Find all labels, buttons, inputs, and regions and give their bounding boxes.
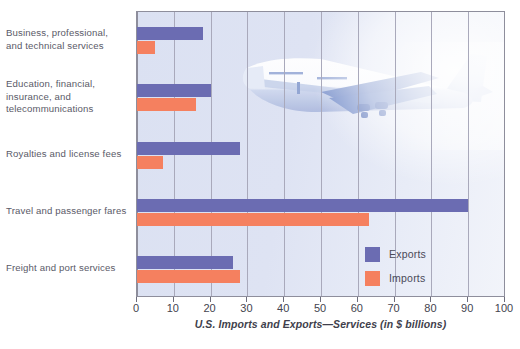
gridline-60: [358, 12, 359, 296]
bar-exports-2: [137, 142, 240, 155]
x-tick-label-40: 40: [277, 302, 289, 314]
category-label-line: Education, financial,: [6, 78, 130, 90]
legend: ExportsImports: [365, 244, 473, 292]
airplane-photo: [225, 42, 505, 150]
category-label-line: insurance, and: [6, 91, 130, 103]
gridline-30: [247, 12, 248, 296]
category-label-1: Education, financial,insurance, andtelec…: [6, 78, 130, 115]
x-tick-label-100: 100: [495, 302, 513, 314]
x-tick-label-0: 0: [133, 302, 139, 314]
x-tick-label-10: 10: [167, 302, 179, 314]
gridline-50: [321, 12, 322, 296]
bar-imports-2: [137, 156, 163, 169]
x-tick-label-80: 80: [424, 302, 436, 314]
bar-imports-3: [137, 213, 369, 226]
x-tick-label-50: 50: [314, 302, 326, 314]
bar-imports-1: [137, 98, 196, 111]
x-tick-label-20: 20: [203, 302, 215, 314]
legend-label: Exports: [389, 248, 426, 260]
legend-item-imports: Imports: [365, 268, 473, 288]
x-tick-label-30: 30: [240, 302, 252, 314]
category-label-line: Travel and passenger fares: [6, 205, 130, 217]
legend-swatch-exports: [365, 247, 380, 262]
bar-exports-0: [137, 27, 203, 40]
bar-imports-0: [137, 41, 155, 54]
gridline-40: [284, 12, 285, 296]
sky-glow: [314, 11, 505, 184]
plot-inner: ExportsImports: [137, 12, 504, 296]
category-label-2: Royalties and license fees: [6, 148, 130, 160]
category-label-line: Royalties and license fees: [6, 148, 130, 160]
category-label-line: telecommunications: [6, 103, 130, 115]
bar-imports-4: [137, 270, 240, 283]
category-label-0: Business, professional,and technical ser…: [6, 27, 130, 52]
category-label-line: Business, professional,: [6, 27, 130, 39]
x-tick-label-60: 60: [351, 302, 363, 314]
bar-chart: Business, professional,and technical ser…: [0, 0, 520, 349]
category-label-column: Business, professional,and technical ser…: [6, 11, 132, 297]
bar-exports-1: [137, 84, 211, 97]
category-label-line: Freight and port services: [6, 262, 130, 274]
category-label-3: Travel and passenger fares: [6, 205, 130, 217]
x-tick-label-90: 90: [461, 302, 473, 314]
x-axis-ticks: 0102030405060708090100: [136, 297, 505, 315]
legend-swatch-imports: [365, 271, 380, 286]
x-axis-title: U.S. Imports and Exports—Services (in $ …: [136, 318, 505, 330]
category-label-line: and technical services: [6, 40, 130, 52]
bar-exports-4: [137, 256, 233, 269]
x-tick-label-70: 70: [387, 302, 399, 314]
bar-exports-3: [137, 199, 468, 212]
category-label-4: Freight and port services: [6, 262, 130, 274]
plot-area: ExportsImports: [136, 11, 505, 297]
legend-item-exports: Exports: [365, 244, 473, 264]
legend-label: Imports: [389, 272, 425, 284]
